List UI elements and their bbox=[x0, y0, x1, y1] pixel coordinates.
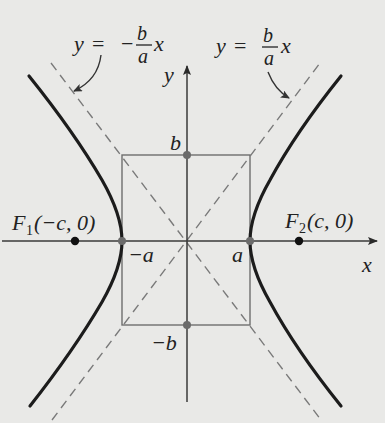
eq-pos-equals: = bbox=[234, 33, 246, 58]
eq-neg-y: y bbox=[72, 31, 84, 56]
pointer-arrow-negative-asymptote bbox=[74, 55, 101, 91]
eq-neg-sign: − bbox=[121, 31, 133, 56]
eq-pos-var: x bbox=[280, 33, 291, 58]
pointer-arrow-positive-asymptote bbox=[268, 72, 289, 98]
label-neg-a: −a bbox=[128, 242, 154, 267]
focus-2-label: F 2 (c, 0) bbox=[284, 208, 353, 236]
eq-neg-var: x bbox=[153, 31, 164, 56]
x-axis-label: x bbox=[361, 252, 372, 277]
central-rectangle bbox=[122, 155, 250, 325]
focus-1-label: F 1 (−c, 0) bbox=[11, 210, 95, 238]
eq-pos-denominator: a bbox=[264, 47, 274, 69]
focus-2-subscript: 2 bbox=[299, 221, 306, 236]
co-vertex-top-point bbox=[183, 151, 191, 159]
focus-2-coords: (c, 0) bbox=[307, 208, 353, 233]
asymptote-negative-label: y = − b a x bbox=[72, 22, 164, 67]
label-neg-b: −b bbox=[151, 330, 177, 355]
eq-neg-denominator: a bbox=[138, 45, 148, 67]
label-b: b bbox=[170, 130, 181, 155]
co-vertex-bottom-point bbox=[183, 321, 191, 329]
label-a: a bbox=[232, 242, 243, 267]
hyperbola-figure: y = − b a x y = b a x y x b −b −a a F 1 … bbox=[0, 0, 385, 423]
vertex-left-point bbox=[118, 237, 126, 245]
focus-2-letter: F bbox=[284, 208, 299, 233]
eq-pos-numerator: b bbox=[263, 24, 273, 46]
y-axis-label: y bbox=[162, 62, 174, 87]
vertex-right-point bbox=[246, 237, 254, 245]
focus-1-coords: (−c, 0) bbox=[34, 210, 95, 235]
focus-1-subscript: 1 bbox=[26, 223, 33, 238]
focus-1-letter: F bbox=[11, 210, 26, 235]
eq-neg-equals: = bbox=[92, 31, 104, 56]
focus-1-point bbox=[71, 237, 79, 245]
focus-2-point bbox=[295, 237, 303, 245]
eq-pos-y: y bbox=[214, 33, 226, 58]
eq-neg-numerator: b bbox=[137, 22, 147, 44]
asymptote-positive-label: y = b a x bbox=[214, 24, 291, 69]
